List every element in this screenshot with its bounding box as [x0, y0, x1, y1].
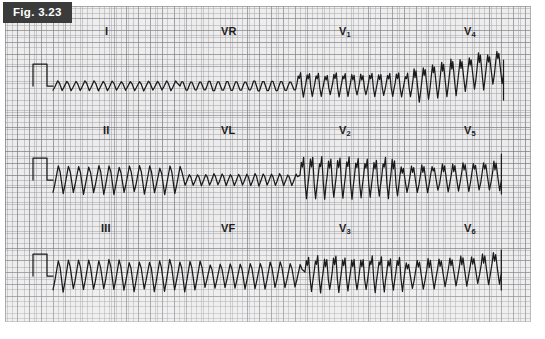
figure-bottom-margin — [5, 322, 531, 339]
lead-label-text: VL — [221, 124, 235, 136]
ecg-row-2 — [33, 154, 501, 199]
label-lead-V4: V4 — [464, 25, 476, 37]
ecg-row-3 — [33, 250, 501, 293]
label-lead-I: I — [105, 25, 108, 37]
lead-label-text: V — [464, 25, 472, 37]
label-lead-V6: V6 — [464, 222, 476, 234]
lead-label-text: II — [103, 124, 110, 136]
label-lead-II: II — [103, 124, 110, 136]
ecg-figure: IVRV1V4IIVLV2V5IIIVFV3V6 Fig. 3.23 — [0, 0, 545, 339]
lead-label-text: V — [464, 222, 472, 234]
lead-label-text: VR — [221, 25, 237, 37]
label-lead-VF: VF — [221, 222, 235, 234]
label-lead-V3: V3 — [339, 222, 351, 234]
lead-label-subscript: 5 — [472, 129, 476, 138]
lead-label-subscript: 6 — [472, 227, 476, 236]
label-lead-V1: V1 — [339, 25, 351, 37]
lead-label-text: V — [339, 222, 347, 234]
lead-label-text: III — [101, 222, 111, 234]
label-lead-VR: VR — [221, 25, 237, 37]
ecg-waveform-row-3 — [53, 253, 501, 293]
calibration-pulse — [33, 158, 53, 180]
calibration-pulse — [33, 64, 53, 86]
lead-label-text: I — [105, 25, 108, 37]
lead-label-subscript: 4 — [472, 30, 476, 39]
label-lead-VL: VL — [221, 124, 235, 136]
lead-label-text: V — [339, 25, 347, 37]
ecg-traces-svg — [5, 6, 531, 322]
lead-label-subscript: 2 — [347, 129, 351, 138]
lead-label-subscript: 1 — [347, 30, 351, 39]
ecg-waveform-row-1 — [53, 51, 504, 102]
label-lead-V5: V5 — [464, 124, 476, 136]
label-lead-V2: V2 — [339, 124, 351, 136]
ecg-waveform-row-2 — [53, 157, 501, 200]
label-lead-III: III — [101, 222, 111, 234]
lead-label-text: V — [339, 124, 347, 136]
lead-label-subscript: 3 — [347, 227, 351, 236]
figure-number-tab: Fig. 3.23 — [4, 3, 71, 22]
ecg-trace-layer — [5, 6, 531, 322]
lead-label-text: V — [464, 124, 472, 136]
lead-label-text: VF — [221, 222, 235, 234]
calibration-pulse — [33, 254, 53, 276]
ecg-row-1 — [33, 51, 504, 102]
